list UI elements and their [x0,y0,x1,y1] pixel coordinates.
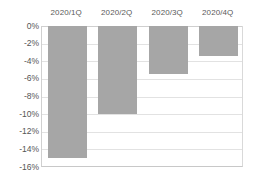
category-label-q3: 2020/3Q [142,6,193,20]
y-axis-tick-label: -16% [0,163,39,172]
y-axis-tick-label: -8% [0,92,39,101]
y-axis-tick-label: -4% [0,57,39,66]
category-label-q4: 2020/4Q [193,6,244,20]
y-axis-tick-label: -10% [0,110,39,119]
y-axis-tick-label: -6% [0,74,39,83]
y-axis-tick-label: -2% [0,39,39,48]
plot-area [41,26,243,167]
bar-2020-4q [199,26,238,56]
bar-chart: 2020/1Q 2020/2Q 2020/3Q 2020/4Q 0%-2%-4%… [0,0,254,183]
bar-2020-3q [149,26,188,74]
category-axis-labels: 2020/1Q 2020/2Q 2020/3Q 2020/4Q [41,6,243,20]
bars-layer [42,26,242,166]
bar-2020-1q [48,26,87,158]
category-label-q2: 2020/2Q [92,6,143,20]
y-axis-tick-label: 0% [0,22,39,31]
bar-2020-2q [98,26,137,114]
y-axis-tick-label: -14% [0,145,39,154]
category-label-q1: 2020/1Q [41,6,92,20]
y-axis-tick-label: -12% [0,127,39,136]
